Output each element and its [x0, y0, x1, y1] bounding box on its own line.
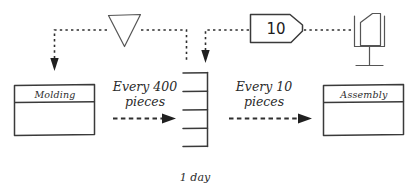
connector-leveling-to-molding: [50, 30, 107, 71]
supermarket-time-label: 1 day: [180, 171, 211, 184]
arrowhead-down-icon: [50, 58, 58, 71]
process-label-assembly: Assembly: [339, 89, 388, 100]
push-arrow-molding-to-supermarket: [113, 114, 176, 124]
flow-label-1-line2: pieces: [125, 94, 165, 109]
arrowhead-right-icon: [298, 114, 312, 124]
connector-leveling-to-supermarket: [141, 30, 187, 62]
process-label-molding: Molding: [33, 89, 75, 100]
load-leveling-triangle-icon: [109, 15, 141, 47]
flow-label-2-line1: Every 10: [235, 79, 293, 94]
value-stream-map-diagram: 10 Molding Every 400 pieces: [0, 0, 415, 196]
arrowhead-down-icon: [201, 50, 209, 63]
arrowhead-right-icon: [162, 114, 176, 124]
push-arrow-supermarket-to-assembly: [229, 114, 312, 124]
flow-label-1-line1: Every 400: [112, 79, 178, 94]
kanban-post-icon: [355, 14, 385, 66]
flow-label-2-line2: pieces: [244, 94, 284, 109]
kanban-card-value: 10: [266, 20, 285, 38]
connector-card-to-supermarket: [201, 30, 249, 63]
supermarket-icon: [183, 73, 208, 147]
